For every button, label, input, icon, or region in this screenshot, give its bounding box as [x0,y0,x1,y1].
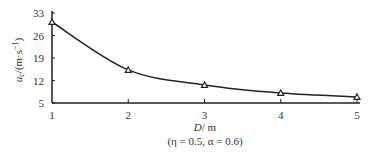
axes [52,11,360,103]
y-tick-label: 19 [33,52,45,64]
x-tick-label: 4 [278,109,284,121]
y-tick-label: 26 [33,30,45,42]
x-tick-label: 5 [354,109,360,121]
triangle-marker [278,90,284,95]
y-axis-label: uc/(m·s−1) [11,37,26,82]
triangle-marker [49,19,55,24]
y-tick-label: 33 [33,7,45,19]
x-tick-label: 2 [126,109,132,121]
y-tick-label: 12 [33,75,44,87]
parameters-caption: (η = 0.5, α = 0.6) [167,135,243,148]
y-tick-label: 5 [39,97,45,109]
triangle-marker [125,67,131,72]
data-markers [49,19,360,99]
x-tick-label: 1 [49,109,55,121]
x-axis-label: D/ m [193,121,217,133]
triangle-marker [202,82,208,87]
x-tick-label: 3 [202,109,208,121]
line-chart: 512192633 12345 uc/(m·s−1) D/ m (η = 0.5… [0,0,377,157]
triangle-marker [354,94,360,99]
